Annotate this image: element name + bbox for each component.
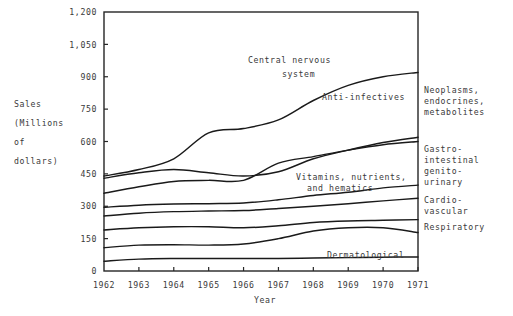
- series-line-respiratory: [104, 227, 418, 247]
- x-tick-label-1968: 1968: [302, 280, 324, 290]
- sales-line-chart-figure: 01503004506007509001,0501,20019621963196…: [0, 0, 513, 316]
- x-tick-label-1963: 1963: [128, 280, 150, 290]
- x-tick-label-1969: 1969: [337, 280, 359, 290]
- right-label-gastro-intestinal-line-1: intestinal: [424, 155, 479, 165]
- chart-svg: 01503004506007509001,0501,20019621963196…: [0, 0, 513, 316]
- x-tick-label-1970: 1970: [372, 280, 394, 290]
- inline-label-dermatological-line-0: Dermatological: [327, 250, 404, 260]
- y-tick-label-1050: 1,050: [69, 40, 97, 50]
- inline-label-central-nervous-system-line-0: Central nervous: [248, 55, 331, 65]
- y-axis-title-line-1: (Millions: [14, 118, 64, 128]
- series-line-central-nervous-system: [104, 72, 418, 176]
- y-tick-label-450: 450: [80, 169, 97, 179]
- y-axis-title-line-2: of: [14, 137, 25, 147]
- right-label-neoplasms-line-0: Neoplasms,: [424, 85, 479, 95]
- y-tick-label-750: 750: [80, 104, 97, 114]
- plot-frame: [104, 12, 418, 271]
- y-tick-label-150: 150: [80, 234, 97, 244]
- inline-label-vitamins-nutrients-hematics-line-0: Vitamins, nutrients,: [296, 172, 407, 182]
- x-tick-label-1966: 1966: [232, 280, 254, 290]
- y-tick-label-300: 300: [80, 201, 97, 211]
- right-label-respiratory-line-0: Respiratory: [424, 222, 485, 232]
- inline-label-central-nervous-system-line-1: system: [282, 69, 315, 79]
- x-tick-label-1967: 1967: [267, 280, 289, 290]
- inline-label-anti-infectives-line-0: Anti-infectives: [322, 92, 405, 102]
- right-label-cardio-vascular-line-1: vascular: [424, 206, 468, 216]
- x-tick-label-1964: 1964: [163, 280, 185, 290]
- y-tick-label-600: 600: [80, 137, 97, 147]
- series-line-cardio-vascular: [104, 220, 418, 230]
- right-label-cardio-vascular-line-0: Cardio-: [424, 195, 463, 205]
- x-tick-label-1965: 1965: [198, 280, 220, 290]
- right-label-gastro-intestinal-line-3: urinary: [424, 177, 463, 187]
- x-axis-title: Year: [254, 295, 276, 305]
- inline-label-vitamins-nutrients-hematics-line-1: and hematics: [307, 183, 373, 193]
- right-label-gastro-intestinal-line-0: Gastro-: [424, 144, 463, 154]
- y-tick-label-1200: 1,200: [69, 7, 97, 17]
- x-tick-label-1971: 1971: [407, 280, 429, 290]
- x-tick-label-1962: 1962: [93, 280, 115, 290]
- y-axis-title-line-0: Sales: [14, 99, 42, 109]
- y-tick-label-0: 0: [91, 266, 97, 276]
- right-label-gastro-intestinal-line-2: genito-: [424, 166, 463, 176]
- y-tick-label-900: 900: [80, 72, 97, 82]
- right-label-neoplasms-line-1: endocrines,: [424, 96, 485, 106]
- right-label-neoplasms-line-2: metabolites: [424, 107, 485, 117]
- y-axis-title-line-3: dollars): [14, 156, 58, 166]
